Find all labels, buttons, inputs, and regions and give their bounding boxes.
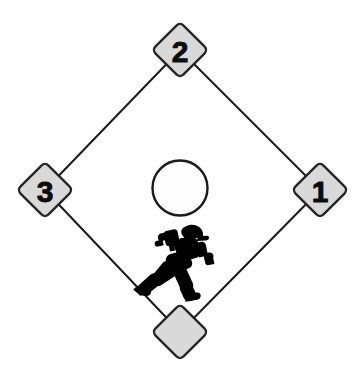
pitchers-mound: [153, 161, 208, 216]
second-base-label: 2: [172, 35, 189, 68]
field-svg: 2 1 3: [0, 0, 361, 370]
baseline-home-to-first: [180, 190, 320, 332]
base-runner-icon: [133, 225, 214, 302]
baseball-diamond-diagram: 2 1 3: [0, 0, 361, 370]
first-base-label: 1: [312, 175, 329, 208]
baseline-third-to-home: [45, 190, 180, 332]
third-base-label: 3: [37, 175, 54, 208]
